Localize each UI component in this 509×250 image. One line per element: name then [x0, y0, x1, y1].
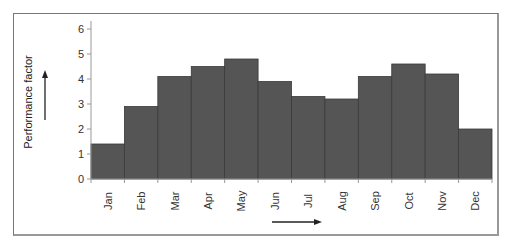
bar-nov: [425, 74, 458, 179]
x-tick-label: Jan: [102, 192, 114, 210]
bar-jul: [292, 97, 325, 180]
bar-chart: 0123456 JanFebMarAprMayJunJulAugSepOctNo…: [0, 0, 509, 250]
bar-sep: [358, 77, 391, 180]
bar-jan: [91, 144, 124, 179]
x-tick-label: Oct: [403, 192, 415, 209]
bar-may: [225, 59, 258, 179]
y-axis-label: Performance factor: [22, 55, 34, 149]
x-tick-label: Nov: [436, 191, 448, 211]
y-tick-label: 0: [78, 173, 84, 185]
y-tick-label: 2: [78, 123, 84, 135]
y-tick-label: 1: [78, 148, 84, 160]
y-tick-label: 5: [78, 48, 84, 60]
y-direction-arrow-icon: [42, 70, 48, 120]
x-tick-label: May: [235, 190, 247, 211]
x-axis: JanFebMarAprMayJunJulAugSepOctNovDec: [91, 179, 492, 211]
bar-jun: [258, 82, 291, 180]
bar-dec: [459, 129, 492, 179]
x-tick-label: Jun: [269, 192, 281, 210]
x-tick-label: Feb: [135, 192, 147, 211]
bar-mar: [158, 77, 191, 180]
bar-aug: [325, 99, 358, 179]
x-tick-label: Sep: [369, 191, 381, 211]
x-direction-arrow-icon: [272, 219, 322, 225]
bar-oct: [392, 64, 425, 179]
x-tick-label: Apr: [202, 192, 214, 209]
bar-apr: [191, 67, 224, 180]
y-axis: 0123456: [78, 21, 91, 185]
bar-feb: [124, 107, 157, 180]
x-tick-label: Jul: [302, 194, 314, 208]
x-tick-label: Mar: [169, 191, 181, 210]
y-tick-label: 3: [78, 98, 84, 110]
x-tick-label: Aug: [336, 191, 348, 211]
y-tick-label: 6: [78, 23, 84, 35]
bars-group: [91, 59, 492, 179]
y-tick-label: 4: [78, 73, 84, 85]
x-tick-label: Dec: [469, 191, 481, 211]
